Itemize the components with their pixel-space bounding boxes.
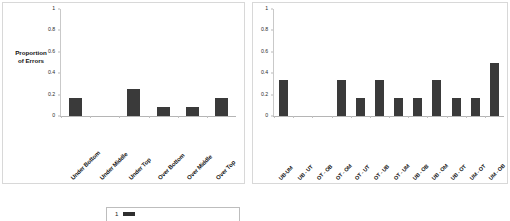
y-axis-tick-label: 0.8 — [48, 28, 55, 33]
x-axis-label: OT - UM — [393, 163, 411, 181]
bar-slot — [178, 9, 207, 116]
bar-series-right — [274, 9, 504, 116]
x-axis-tick-mark — [61, 116, 62, 118]
bar — [432, 80, 441, 116]
x-axis-tick-mark — [466, 116, 467, 118]
y-axis-tick-label: 0.4 — [261, 71, 268, 76]
bar — [394, 98, 403, 116]
y-axis-tick-label: 0 — [52, 113, 55, 118]
bar-slot — [90, 9, 119, 116]
bar — [186, 107, 199, 116]
bar — [452, 98, 461, 116]
bar-slot — [207, 9, 236, 116]
bar-slot — [447, 9, 466, 116]
x-axis-label: OT - OB — [316, 164, 333, 181]
x-axis-label: Over Top — [215, 159, 237, 181]
x-axis-label: UM - OB — [489, 163, 507, 181]
bar-slot — [293, 9, 312, 116]
x-axis-tick-mark — [90, 116, 91, 118]
bar — [69, 98, 82, 116]
y-axis-tick-label: 1 — [52, 6, 55, 11]
bar — [337, 80, 346, 116]
legend-color-swatch — [123, 212, 135, 216]
bar — [356, 98, 365, 116]
x-axis-label: UM - OT — [469, 163, 487, 181]
legend-label: 1 — [115, 211, 118, 217]
x-axis-tick-mark — [119, 116, 120, 118]
chart-panel-left: Proportion of Errors Proportion of Error… — [2, 2, 245, 184]
legend-box: 1 — [106, 207, 240, 221]
x-axis-tick-mark — [408, 116, 409, 118]
bar-series-left — [61, 9, 236, 116]
x-axis-label: UB - OT — [450, 164, 467, 181]
x-axis-label: UB - OB — [412, 163, 430, 181]
x-axis-label: Under Bottom — [69, 150, 100, 181]
bar-slot — [332, 9, 351, 116]
bar — [127, 89, 140, 116]
x-axis-tick-mark — [332, 116, 333, 118]
bar-slot — [312, 9, 331, 116]
x-axis-tick-mark — [370, 116, 371, 118]
bar-slot — [427, 9, 446, 116]
bar — [413, 98, 422, 116]
bar — [215, 98, 228, 116]
bar-slot — [485, 9, 504, 116]
y-axis-tick-label: 0.6 — [261, 49, 268, 54]
bar — [279, 80, 288, 116]
x-axis-tick-mark — [351, 116, 352, 118]
y-axis-tick-label: 0.2 — [48, 92, 55, 97]
bar — [157, 107, 170, 116]
x-axis-tick-mark — [485, 116, 486, 118]
x-axis-label: UB - OM — [431, 163, 449, 181]
bar-slot — [274, 9, 293, 116]
bar-slot — [389, 9, 408, 116]
x-axis-label: Under Middle — [99, 151, 129, 181]
bar-slot — [351, 9, 370, 116]
x-axis-tick-mark — [427, 116, 428, 118]
bar-slot — [408, 9, 427, 116]
legend-entry: 1 — [115, 211, 135, 217]
x-axis-tick-mark — [293, 116, 294, 118]
x-axis-label: OT - UB — [374, 164, 391, 181]
bar-slot — [61, 9, 90, 116]
x-axis-labels-left: Under BottomUnder MiddleUnder TopOver Bo… — [61, 119, 236, 181]
figure-page: Proportion of Errors Proportion of Error… — [0, 0, 510, 221]
bar-slot — [149, 9, 178, 116]
x-axis-tick-mark — [389, 116, 390, 118]
x-axis-label: UB - UT — [297, 164, 314, 181]
y-axis-tick-label: 0.8 — [261, 28, 268, 33]
y-axis-tick-label: 0 — [265, 113, 268, 118]
bar-slot — [119, 9, 148, 116]
bar-slot — [370, 9, 389, 116]
x-axis-labels-right: UB-UMUB - UTOT - OBOT - OMOT - UTOT - UB… — [274, 119, 504, 181]
x-axis-label: Under Top — [128, 157, 152, 181]
x-axis-tick-mark — [447, 116, 448, 118]
x-axis-tick-mark — [149, 116, 150, 118]
y-axis-tick-label: 0.4 — [48, 71, 55, 76]
x-axis-label: OT - OM — [335, 163, 353, 181]
y-axis-title-text-line2: of Errors — [18, 57, 44, 64]
y-axis-title-text-line1: Proportion — [15, 49, 47, 56]
x-axis-label: OT - UT — [354, 164, 371, 181]
y-axis-tick-label: 1 — [265, 6, 268, 11]
bar — [490, 63, 499, 117]
bar — [375, 80, 384, 116]
x-axis-tick-mark — [178, 116, 179, 118]
x-axis-tick-mark — [312, 116, 313, 118]
bar — [471, 98, 480, 116]
x-axis-label: Over Middle — [186, 154, 213, 181]
chart-panel-right: 00.20.40.60.81 UB-UMUB - UTOT - OBOT - O… — [252, 2, 508, 184]
y-axis-tick-label: 0.2 — [261, 92, 268, 97]
x-axis-label: UB-UM — [278, 165, 294, 181]
x-axis-label: Over Bottom — [157, 152, 186, 181]
x-axis-tick-mark — [274, 116, 275, 118]
y-axis-tick-label: 0.6 — [48, 49, 55, 54]
x-axis-tick-mark — [207, 116, 208, 118]
bar-slot — [466, 9, 485, 116]
